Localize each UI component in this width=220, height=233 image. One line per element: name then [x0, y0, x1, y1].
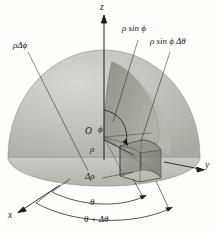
figure-canvas — [0, 0, 220, 233]
spherical-coordinates-figure: z y x ρΔϕ ρ sin ϕ ρ sin ϕ Δθ O ϕ ρ Δρ θ … — [0, 0, 220, 233]
z-axis-arrowhead — [101, 15, 106, 23]
theta-arcs — [36, 192, 173, 220]
y-axis-arrowhead — [197, 167, 205, 172]
hemisphere-base-disc — [8, 157, 200, 186]
